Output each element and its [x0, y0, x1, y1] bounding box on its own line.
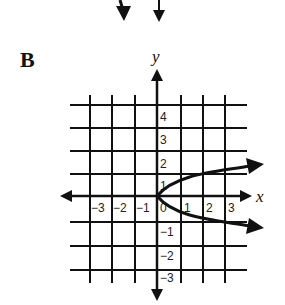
cropped-arrows-top: [116, 0, 165, 22]
x-axis-right-arrow-icon: [240, 190, 252, 202]
y-axis-up-arrow-icon: [151, 69, 163, 81]
y-tick-labels: 1 2 3 4 −1 −2 −3: [160, 110, 174, 285]
svg-text:3: 3: [228, 201, 235, 215]
x-axis-label: x: [255, 187, 264, 206]
svg-text:−3: −3: [91, 201, 105, 215]
grid: [70, 95, 247, 283]
y-axis-down-arrow-icon: [151, 289, 163, 301]
svg-text:−2: −2: [160, 249, 174, 263]
svg-text:4: 4: [160, 110, 167, 124]
curve-upper-arrow-icon: [246, 158, 264, 174]
curve-lower-arrow-icon: [246, 218, 264, 234]
svg-text:2: 2: [206, 201, 213, 215]
y-axis-label: y: [150, 47, 160, 66]
svg-text:−2: −2: [113, 201, 127, 215]
x-axis-left-arrow-icon: [60, 190, 72, 202]
svg-text:2: 2: [160, 157, 167, 171]
svg-text:−1: −1: [160, 225, 174, 239]
svg-text:−1: −1: [136, 201, 150, 215]
panel-label: B: [20, 47, 35, 72]
coordinate-graph: B y x −3 −2 −1 0 1 2 3: [0, 0, 285, 305]
svg-text:3: 3: [160, 133, 167, 147]
svg-text:−3: −3: [160, 271, 174, 285]
